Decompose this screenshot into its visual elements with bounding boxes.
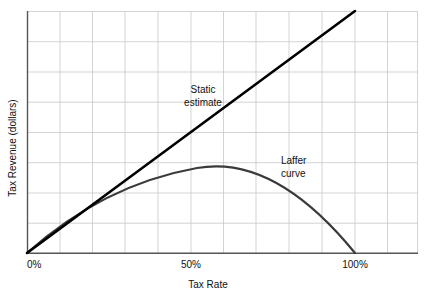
annotation-laffer-curve-line2: curve [281, 168, 306, 179]
x-axis-title: Tax Rate [188, 279, 228, 290]
y-axis-title: Tax Revenue (dollars) [7, 99, 18, 196]
annotation-static-estimate-line2: estimate [184, 97, 222, 108]
x-tick-label-100: 100% [342, 259, 368, 270]
x-tick-label-50: 50% [181, 259, 201, 270]
plot-background [27, 11, 418, 253]
laffer-curve-chart-figure: Static estimate Laffer curve 0% 50% 100%… [0, 0, 432, 295]
annotation-laffer-curve-line1: Laffer [281, 155, 307, 166]
annotation-static-estimate-line1: Static [190, 84, 215, 95]
x-tick-label-0: 0% [27, 259, 42, 270]
chart-canvas: Static estimate Laffer curve 0% 50% 100%… [0, 0, 432, 295]
